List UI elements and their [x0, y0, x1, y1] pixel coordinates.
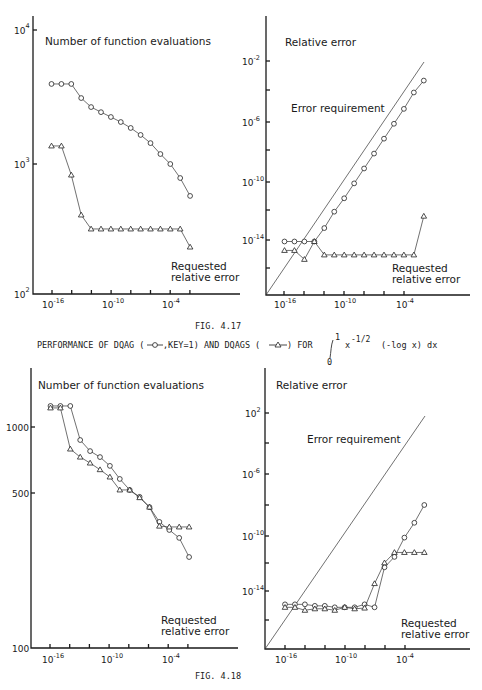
error-requirement-label: Error requirement [291, 102, 385, 114]
circle-marker [332, 209, 337, 214]
panel-title: Number of function evaluations [38, 379, 204, 391]
circle-marker [88, 449, 93, 454]
circle-marker [352, 181, 357, 186]
axes [266, 16, 470, 295]
triangle-marker [422, 550, 428, 555]
x-tick-label: 10-16 [42, 652, 64, 665]
triangle-marker [176, 524, 182, 529]
triangle-marker [371, 252, 377, 257]
x-tick-label: 10-10 [335, 652, 357, 665]
y-tick-label: 1000 [6, 423, 29, 433]
circle-marker [128, 126, 133, 131]
triangle-marker [168, 226, 174, 231]
circle-marker [402, 535, 407, 540]
circle-marker [362, 166, 367, 171]
y-tick-label: 100 [12, 644, 29, 654]
error-requirement-label: Error requirement [307, 433, 401, 445]
y-tick-label: 10-6 [242, 115, 260, 128]
triangle-marker [402, 550, 408, 555]
triangle-marker [77, 454, 83, 459]
x-axis-label-line2: relative error [161, 625, 230, 637]
x-tick-label: 10-16 [274, 297, 296, 310]
triangle-marker [158, 226, 164, 231]
circle-legend-glyph [147, 343, 163, 348]
figure-caption: FIG. 4.18 [195, 671, 241, 681]
integral-upper: 1 [335, 332, 340, 342]
integrand: x [345, 340, 350, 350]
triangle-marker [177, 226, 183, 231]
description-part-b: ,KEY=1) AND DQAGS ( [163, 340, 260, 350]
series-dqags [49, 143, 193, 249]
triangle-marker [282, 248, 288, 253]
circle-marker [392, 554, 397, 559]
series-group [48, 404, 192, 560]
series-dqags [48, 405, 192, 529]
error-requirement-line [265, 416, 425, 649]
integrand-exponent: -1/2 [351, 335, 370, 344]
circle-marker [79, 96, 84, 101]
triangle-marker [78, 212, 84, 217]
circle-marker [412, 520, 417, 525]
x-tick-label: 10-10 [334, 297, 356, 310]
triangle-marker [98, 226, 104, 231]
circle-marker [382, 136, 387, 141]
x-tick-label: 10-4 [396, 652, 414, 665]
circle-marker [68, 404, 73, 409]
circle-marker [177, 535, 182, 540]
error-requirement-line [266, 62, 424, 295]
series-line [285, 505, 424, 607]
x-axis-label-line2: relative error [401, 628, 470, 640]
triangle-marker [372, 581, 378, 586]
x-tick-label: 10-4 [162, 652, 180, 665]
y-tick-label: 10-6 [242, 467, 260, 480]
x-tick-label: 10-16 [42, 297, 64, 310]
circle-marker [372, 605, 377, 610]
triangle-marker [411, 252, 417, 257]
circle-marker [303, 602, 308, 607]
y-tick-label: 10-2 [242, 54, 260, 67]
integrand-rest: (-log x) dx [381, 340, 437, 350]
circle-marker [158, 152, 163, 157]
circle-marker [421, 78, 426, 83]
y-tick-label: 10-14 [242, 233, 264, 246]
circle-marker [118, 120, 123, 125]
panel-fig418-relative-error: 102 10-6 10-10 10-14 10-16 10-10 10-4 Re… [242, 368, 470, 665]
triangle-legend-glyph [269, 342, 287, 347]
series-dqag [48, 404, 191, 560]
series-dqag [49, 82, 192, 199]
triangle-marker [421, 213, 427, 218]
circle-marker [49, 82, 54, 87]
x-tick-label: 10-4 [396, 297, 414, 310]
x-tick-label: 10-10 [102, 297, 124, 310]
y-tick-label: 10-10 [242, 175, 264, 188]
triangle-marker [412, 550, 418, 555]
triangle-marker [128, 226, 134, 231]
x-tick-label: 10-10 [101, 652, 123, 665]
triangle-marker [49, 143, 55, 148]
triangle-marker [88, 226, 94, 231]
triangle-marker [97, 467, 103, 472]
triangle-marker [341, 252, 347, 257]
series-line [52, 146, 191, 247]
circle-marker [148, 141, 153, 146]
circle-marker [168, 162, 173, 167]
circle-marker [422, 503, 427, 508]
triangle-marker [148, 226, 154, 231]
circle-marker [89, 105, 94, 110]
triangle-marker [391, 252, 397, 257]
circle-marker [178, 176, 183, 181]
series-dqags [282, 213, 427, 261]
panel-fig417-evaluations: 104 103 102 10-16 10-10 10-4 Number of f… [14, 16, 240, 310]
triangle-marker [107, 474, 113, 479]
triangle-marker [381, 252, 387, 257]
y-tick-label: 104 [14, 22, 30, 36]
panel-title: Relative error [276, 379, 348, 391]
x-axis-label-line2: relative error [171, 271, 240, 283]
circle-marker [138, 133, 143, 138]
figure-caption: FIG. 4.17 [195, 321, 241, 331]
description-part-a: PERFORMANCE OF DQAG ( [37, 340, 144, 350]
panel-fig417-relative-error: 10-2 10-6 10-10 10-14 10-16 10-10 10-4 R… [242, 16, 470, 310]
circle-marker [69, 82, 74, 87]
panel-fig418-evaluations: 1000 500 100 10-16 10-10 10-4 Number of … [6, 368, 238, 665]
y-tick-label: 500 [12, 489, 29, 499]
